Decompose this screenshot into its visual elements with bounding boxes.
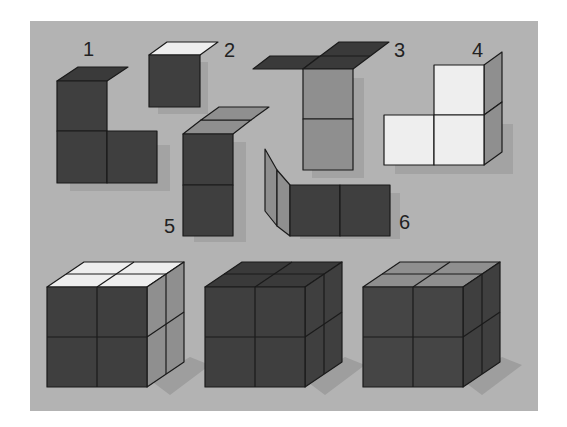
assembled-cube-c (363, 262, 522, 395)
label-4: 4 (472, 39, 483, 61)
puzzle-diagram: 1 2 3 4 5 (0, 0, 567, 427)
label-5: 5 (164, 215, 175, 237)
label-6: 6 (399, 211, 410, 233)
label-1: 1 (83, 38, 94, 60)
label-3: 3 (394, 39, 405, 61)
label-2: 2 (224, 39, 235, 61)
assembled-cube-b (205, 262, 365, 395)
